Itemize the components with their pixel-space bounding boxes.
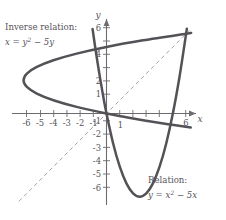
y-tick--2: -2 <box>93 129 101 139</box>
relation-equation: y = x2 − 5x <box>147 189 197 200</box>
y-tick-6: 6 <box>96 23 101 33</box>
y-tick--1: -1 <box>93 116 101 126</box>
x-tick--6: -6 <box>22 118 30 128</box>
y-tick-4: 4 <box>96 49 101 59</box>
x-tick--2: -2 <box>76 118 84 128</box>
relation-eq-lhs: y = x <box>147 190 171 200</box>
relation-title: Relation: <box>148 175 187 185</box>
y-axis-label: y <box>94 10 101 20</box>
inverse-eq-rhs: − 5y <box>31 37 54 47</box>
y-tick--4: -4 <box>93 156 101 166</box>
graph-figure: -6 -5 -4 -3 -2 -1 1 6 6 4 2 1 -1 -2 -3 -… <box>0 0 226 220</box>
x-tick--3: -3 <box>63 118 71 128</box>
coordinate-plane-svg: -6 -5 -4 -3 -2 -1 1 6 6 4 2 1 -1 -2 -3 -… <box>0 0 226 220</box>
inverse-eq-lhs: x = y <box>5 37 28 47</box>
x-tick--4: -4 <box>49 118 57 128</box>
relation-annotation: Relation: y = x2 − 5x <box>147 175 197 200</box>
inverse-relation-equation: x = y2 − 5y <box>5 36 54 47</box>
y-axis-arrow <box>104 19 110 26</box>
x-axis-arrow <box>189 111 196 117</box>
y-tick--5: -5 <box>93 169 101 179</box>
y-tick-1: 1 <box>96 89 101 99</box>
x-tick-1: 1 <box>118 120 123 130</box>
relation-eq-rhs: − 5x <box>174 190 197 200</box>
y-tick-2: 2 <box>96 76 101 86</box>
inverse-relation-annotation: Inverse relation: x = y2 − 5y <box>5 22 77 47</box>
y-tick--3: -3 <box>93 143 101 153</box>
inverse-relation-title: Inverse relation: <box>5 22 77 32</box>
y-tick--6: -6 <box>93 183 101 193</box>
x-tick--5: -5 <box>36 118 44 128</box>
x-axis-label: x <box>197 114 202 124</box>
x-tick-6: 6 <box>183 118 188 128</box>
